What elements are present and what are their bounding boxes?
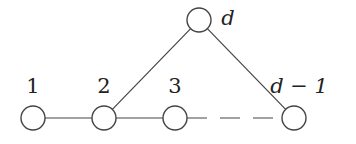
labels: 123d − 1d: [26, 6, 328, 98]
node-n2: [92, 106, 116, 130]
edges: [45, 29, 286, 118]
node-n1: [21, 106, 45, 130]
graph-diagram: 123d − 1d: [0, 0, 356, 144]
node-label-n3: 3: [168, 74, 181, 98]
node-label-nd: d: [221, 6, 234, 30]
node-n3: [163, 106, 187, 130]
node-nd1: [282, 106, 306, 130]
node-label-n1: 1: [26, 74, 39, 98]
node-label-n2: 2: [97, 74, 110, 98]
node-nd: [187, 8, 211, 32]
nodes: [21, 8, 306, 130]
node-label-nd1: d − 1: [270, 74, 328, 98]
